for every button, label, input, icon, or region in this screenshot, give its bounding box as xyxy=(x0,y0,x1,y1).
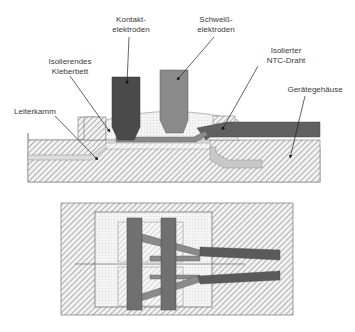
label-leiterkamm: Leiterkamm xyxy=(10,107,60,117)
label-geraetegehaeuse: Gerätegehäuse xyxy=(283,85,347,95)
label-isolierter-ntc-draht: Isolierter NTC-Draht xyxy=(258,46,314,66)
plan-electrode-left xyxy=(127,218,142,310)
plan-view xyxy=(61,203,293,315)
contact-electrode xyxy=(112,77,140,140)
label-isolierendes-kleberbett: Isolierendes Kleberbett xyxy=(40,57,100,77)
label-schweiss-elektroden: Schweiß- elektroden xyxy=(193,15,239,35)
weld-electrode xyxy=(160,70,188,133)
label-kontakt-elektroden: Kontakt- elektroden xyxy=(108,15,154,35)
cross-section-view xyxy=(28,70,320,182)
plan-electrode-right xyxy=(161,218,176,310)
